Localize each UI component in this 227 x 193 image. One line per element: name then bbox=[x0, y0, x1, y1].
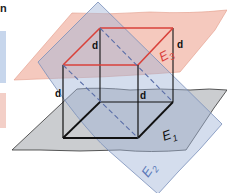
planes-diagram: d d d d E 3 E 1 E 2 bbox=[0, 0, 227, 193]
distance-label-d: d bbox=[177, 39, 183, 50]
distance-label-d: d bbox=[55, 88, 61, 99]
distance-label-d: d bbox=[140, 90, 146, 101]
distance-label-d: d bbox=[92, 40, 98, 51]
